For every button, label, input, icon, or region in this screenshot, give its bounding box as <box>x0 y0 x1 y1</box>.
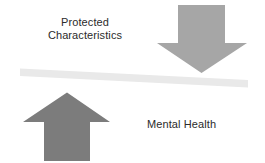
label-protected-characteristics: Protected Characteristics <box>33 16 137 42</box>
diagram-canvas: Protected Characteristics Mental Health <box>0 0 265 163</box>
arrow-up-icon <box>23 93 110 162</box>
tilted-beam <box>20 69 248 88</box>
label-mental-health: Mental Health <box>147 118 216 131</box>
label-protected-line-1: Protected <box>61 16 109 28</box>
label-protected-line-2: Characteristics <box>33 29 137 42</box>
arrow-down-icon <box>157 5 247 73</box>
